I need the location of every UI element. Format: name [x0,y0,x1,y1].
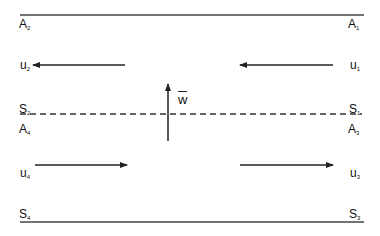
label-A4: A4 [19,123,30,136]
label-A3: A3 [348,123,359,136]
label-S4: S4 [19,208,30,221]
flow-diagram: A2 A1 u2 u1 w S2 S1 A4 A3 u4 u3 S4 S3 [0,0,380,236]
label-A2: A2 [19,18,30,31]
label-w-bar: w [178,93,187,106]
label-u3: u3 [350,167,360,180]
overline [178,91,187,92]
label-S2: S2 [19,103,30,116]
label-u2: u2 [20,59,30,72]
label-S3: S3 [349,208,360,221]
label-A1: A1 [348,18,359,31]
label-u4: u4 [20,167,30,180]
label-S1: S1 [349,103,360,116]
label-u1: u1 [350,59,360,72]
diagram-canvas [0,0,380,236]
